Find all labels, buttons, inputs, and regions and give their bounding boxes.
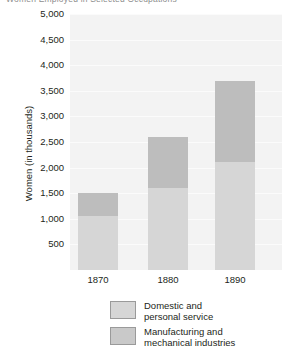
legend-label-manufacturing-line1: Manufacturing and <box>144 327 235 338</box>
legend-label-domestic-line2: personal service <box>144 312 213 323</box>
bar-1880 <box>148 137 188 270</box>
y-tick-label: 500 <box>16 239 64 249</box>
y-axis-title: Women (in thousands) <box>23 74 34 234</box>
x-tick-label: 1870 <box>68 274 128 285</box>
legend-swatch-manufacturing-icon <box>110 327 136 345</box>
y-tick-label: 1,000 <box>16 214 64 224</box>
y-tick-label: 2,500 <box>16 137 64 147</box>
y-tick-label: 5,000 <box>16 9 64 19</box>
y-tick-label: 2,000 <box>16 163 64 173</box>
bar-segment-manufacturing <box>78 193 118 216</box>
x-tick-label: 1880 <box>138 274 198 285</box>
bar-segment-domestic <box>215 162 255 270</box>
bar-segment-domestic <box>78 216 118 270</box>
gridline <box>70 14 282 15</box>
chart-legend: Domestic and personal service Manufactur… <box>110 301 290 353</box>
bar-segment-domestic <box>148 188 188 270</box>
y-tick-label: 1,500 <box>16 188 64 198</box>
x-tick-label: 1890 <box>205 274 265 285</box>
legend-item-domestic: Domestic and personal service <box>110 301 290 322</box>
y-tick-label: 3,000 <box>16 111 64 121</box>
legend-label-manufacturing: Manufacturing and mechanical industries <box>144 327 235 348</box>
bar-1870 <box>78 193 118 270</box>
legend-label-domestic: Domestic and personal service <box>144 301 213 322</box>
gridline <box>70 40 282 41</box>
legend-swatch-domestic-icon <box>110 301 136 319</box>
y-tick-label: 4,000 <box>16 60 64 70</box>
bar-segment-manufacturing <box>215 81 255 163</box>
bar-segment-manufacturing <box>148 137 188 188</box>
y-tick-label: 4,500 <box>16 35 64 45</box>
gridline <box>70 65 282 66</box>
legend-label-manufacturing-line2: mechanical industries <box>144 338 235 349</box>
legend-item-manufacturing: Manufacturing and mechanical industries <box>110 327 290 348</box>
legend-label-domestic-line1: Domestic and <box>144 301 213 312</box>
y-tick-label: 3,500 <box>16 86 64 96</box>
bar-1890 <box>215 81 255 270</box>
